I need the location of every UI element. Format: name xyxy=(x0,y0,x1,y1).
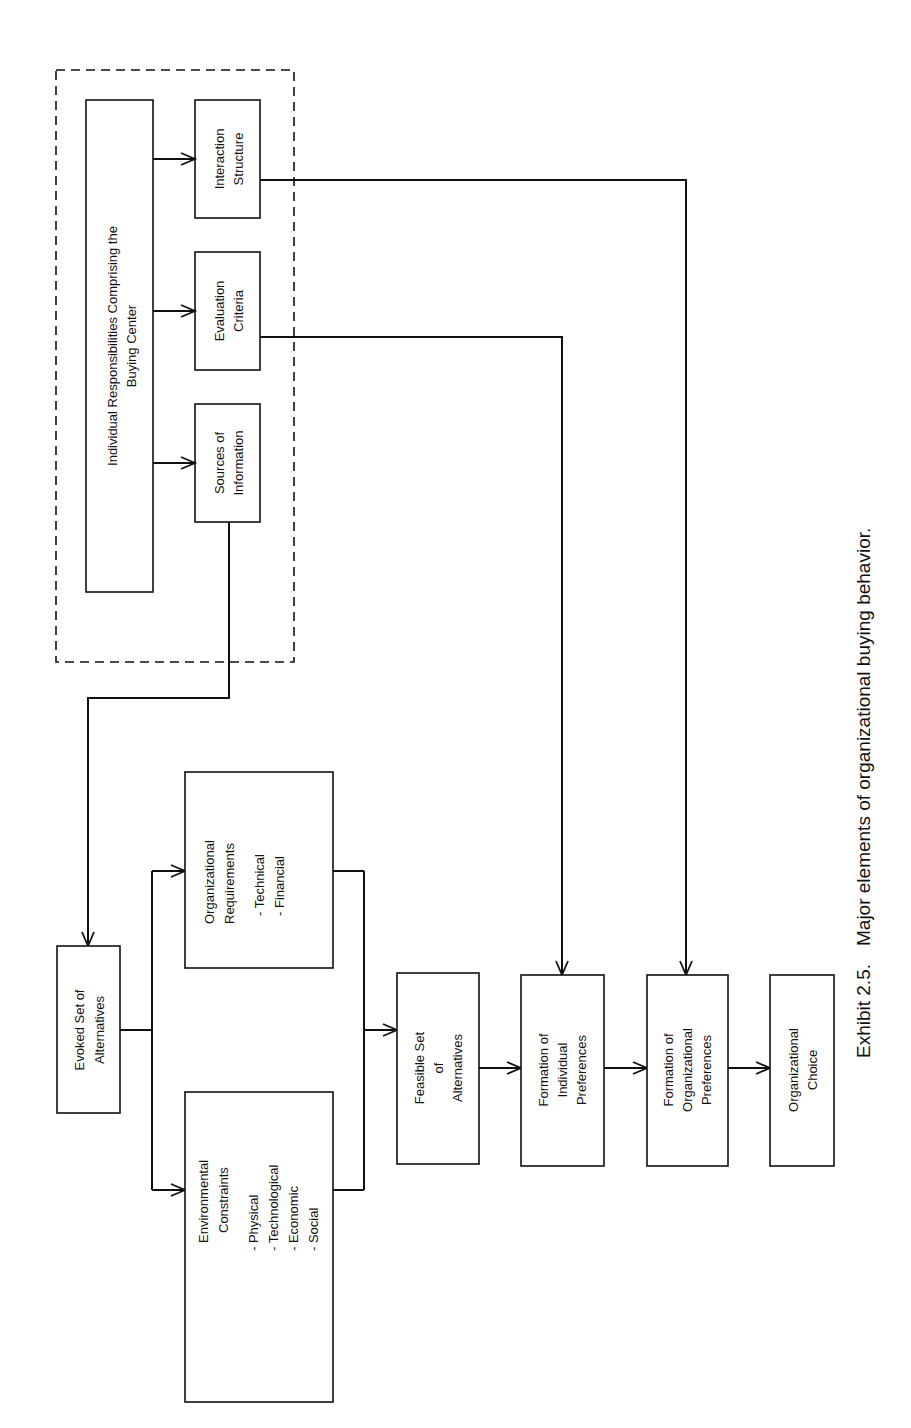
arrow-feasible-to-individual xyxy=(479,1062,521,1074)
organizational-choice-label-1: Organizational xyxy=(786,1028,801,1112)
caption-title: Major elements of organizational buying … xyxy=(853,528,874,946)
env-item-4: - Social xyxy=(306,1208,321,1251)
feasible-set-label-3: Alternatives xyxy=(450,1034,465,1102)
individual-preferences-label-2: Individual xyxy=(555,1042,570,1097)
organizational-choice-label-2: Choice xyxy=(805,1050,820,1090)
feasible-set-label-1: Feasible Set xyxy=(412,1031,427,1104)
individual-responsibilities-label-2: Buying Center xyxy=(124,304,139,387)
env-title-1: Environmental xyxy=(196,1160,211,1243)
arrow-responsibilities-to-sources xyxy=(153,457,195,469)
sources-of-information-box xyxy=(195,404,260,522)
interaction-structure-box xyxy=(195,100,260,218)
arrow-branches-to-feasible-set xyxy=(333,871,397,1190)
arrow-evoked-to-branches xyxy=(120,865,185,1196)
feasible-set-label-2: of xyxy=(431,1062,446,1073)
arrow-individual-to-organizational xyxy=(604,1062,647,1074)
evaluation-criteria-box xyxy=(195,252,260,370)
evaluation-criteria-label-2: Criteria xyxy=(231,289,246,332)
sources-of-information-label-2: Information xyxy=(231,430,246,495)
interaction-structure-label-2: Structure xyxy=(231,133,246,186)
org-req-title-1: Organizational xyxy=(202,840,217,924)
organizational-choice-box xyxy=(770,975,834,1166)
env-item-1: - Physical xyxy=(246,1195,261,1251)
evoked-set-label-2: Alternatives xyxy=(92,996,107,1064)
organizational-preferences-label-3: Preferences xyxy=(699,1034,714,1105)
evaluation-criteria-label-1: Evaluation xyxy=(212,281,227,342)
individual-preferences-label-1: Formation of xyxy=(536,1033,551,1106)
evoked-set-box xyxy=(57,946,120,1113)
env-item-2: - Technological xyxy=(266,1164,281,1251)
caption-exhibit: Exhibit 2.5. xyxy=(853,964,874,1058)
org-req-title-2: Requirements xyxy=(222,843,237,924)
arrow-organizational-to-choice xyxy=(728,1062,770,1074)
individual-responsibilities-label-1: Individual Responsibilities Comprising t… xyxy=(105,226,120,466)
evoked-set-label-1: Evoked Set of xyxy=(72,989,87,1070)
env-item-3: - Economic xyxy=(286,1185,301,1251)
org-req-item-1: - Technical xyxy=(252,854,267,916)
organizational-preferences-label-1: Formation of xyxy=(661,1033,676,1106)
org-req-item-2: - Financial xyxy=(272,856,287,916)
env-title-2: Constraints xyxy=(216,1167,231,1233)
arrow-responsibilities-to-interaction xyxy=(153,153,195,165)
individual-preferences-label-3: Preferences xyxy=(574,1034,589,1105)
arrow-responsibilities-to-evaluation xyxy=(153,305,195,317)
organizational-preferences-label-2: Organizational xyxy=(680,1028,695,1112)
sources-of-information-label-1: Sources of xyxy=(212,432,227,495)
diagram-canvas: Individual Responsibilities Comprising t… xyxy=(0,0,911,1428)
interaction-structure-label-1: Interaction xyxy=(212,129,227,190)
